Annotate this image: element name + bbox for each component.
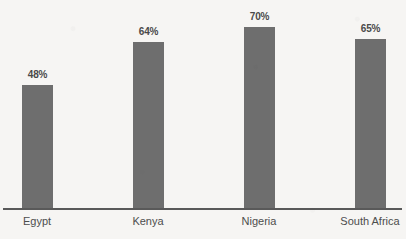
bar-value-label: 70%	[250, 12, 269, 22]
bar-value-label: 65%	[361, 24, 380, 34]
bar-south-africa[interactable]	[355, 39, 386, 209]
bar-group-nigeria: 70%	[244, 0, 275, 209]
bar-value-label: 48%	[28, 70, 47, 80]
plot-area: 48% 64% 70% 65%	[0, 0, 406, 209]
bar-group-kenya: 64%	[133, 0, 164, 209]
bar-value-label: 64%	[139, 27, 158, 37]
x-axis-label-kenya: Kenya	[132, 213, 163, 229]
bar-group-south-africa: 65%	[355, 0, 386, 209]
x-axis-labels: Egypt Kenya Nigeria South Africa	[0, 213, 406, 233]
bar-egypt[interactable]	[22, 85, 53, 209]
bar-nigeria[interactable]	[244, 27, 275, 209]
x-axis-line	[3, 208, 402, 210]
bar-group-egypt: 48%	[22, 0, 53, 209]
x-axis-label-nigeria: Nigeria	[242, 213, 277, 229]
bar-kenya[interactable]	[133, 42, 164, 209]
x-axis-label-south-africa: South Africa	[340, 213, 399, 229]
x-axis-label-egypt: Egypt	[23, 213, 51, 229]
bar-chart: 48% 64% 70% 65% Egypt Kenya Nigeria Sout…	[0, 0, 406, 239]
